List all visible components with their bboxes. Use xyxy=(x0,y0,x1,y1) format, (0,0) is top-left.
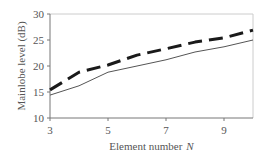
x-tick-label: 9 xyxy=(221,124,227,136)
series-solid-line xyxy=(50,40,253,95)
series-dashed-line xyxy=(50,30,253,90)
y-tick-label: 20 xyxy=(33,60,45,72)
plot-frame xyxy=(50,14,253,118)
x-axis-title-text: Element number xyxy=(109,140,182,152)
y-tick-label: 15 xyxy=(33,86,45,98)
y-tick-label: 10 xyxy=(33,112,45,124)
x-axis-ticks: 3579 xyxy=(47,118,227,136)
x-tick-label: 3 xyxy=(47,124,53,136)
mainlobe-chart: 1015202530 3579 Mainlobe level (dB) Elem… xyxy=(0,0,265,160)
x-axis-variable: N xyxy=(185,140,194,152)
x-axis-title: Element numberN xyxy=(109,140,194,152)
y-tick-label: 30 xyxy=(33,8,45,20)
y-axis-ticks: 1015202530 xyxy=(33,8,50,124)
data-series xyxy=(50,30,253,95)
x-tick-label: 7 xyxy=(163,124,169,136)
y-axis-title: Mainlobe level (dB) xyxy=(15,21,28,111)
x-tick-label: 5 xyxy=(105,124,111,136)
y-tick-label: 25 xyxy=(33,34,45,46)
